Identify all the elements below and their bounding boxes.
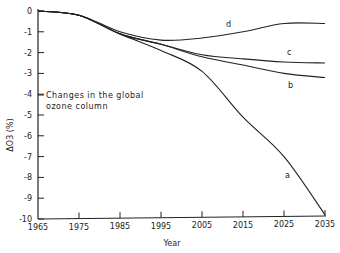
curve-label-c: c (287, 48, 291, 57)
annotation-line-2: ozone column (46, 102, 108, 111)
annotation-line-1: Changes in the global (46, 91, 144, 100)
y-tick-label: -4 (24, 90, 32, 99)
y-ticks: 0-1-2-3-4-5-6-7-8-9-10 (19, 7, 44, 224)
x-tick-label: 2025 (274, 220, 294, 229)
y-tick-label: -3 (24, 69, 32, 78)
curve-label-a: a (285, 171, 290, 180)
y-tick-label: -5 (24, 111, 32, 120)
curve-b (38, 11, 325, 78)
y-tick-label: -1 (24, 28, 32, 37)
x-ticks: 19651975198519952005201520252035 (28, 210, 335, 232)
x-tick-label: 1965 (28, 223, 48, 232)
x-axis-title: Year (163, 239, 182, 248)
y-tick-label: -2 (24, 49, 32, 58)
curves (38, 11, 325, 215)
curve-a (38, 11, 325, 215)
x-tick-label: 2035 (315, 220, 335, 229)
y-tick-label: -7 (24, 153, 32, 162)
x-tick-label: 2015 (233, 221, 253, 230)
x-axis (38, 216, 326, 219)
y-tick-label: -9 (24, 194, 32, 203)
y-axis-title: ΔO3 (%) (6, 118, 15, 151)
x-tick-label: 1985 (110, 222, 130, 231)
x-tick-label: 1995 (151, 222, 171, 231)
curve-d (38, 11, 325, 40)
y-tick-label: -6 (24, 132, 32, 141)
x-tick-label: 1975 (69, 223, 89, 232)
curve-label-b: b (288, 81, 293, 90)
curve-label-d: d (226, 20, 231, 29)
ozone-chart: 0-1-2-3-4-5-6-7-8-9-10 19651975198519952… (0, 0, 340, 253)
y-tick-label: 0 (27, 7, 32, 16)
y-tick-label: -8 (24, 173, 32, 182)
curve-c (38, 11, 325, 63)
x-tick-label: 2005 (192, 221, 212, 230)
